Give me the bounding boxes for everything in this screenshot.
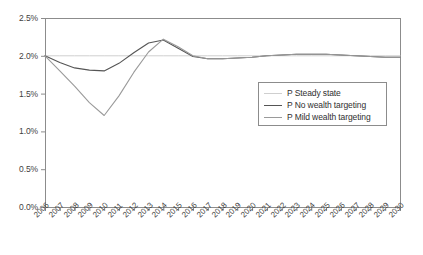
- y-axis-tick-label: 2.5%: [2, 13, 38, 23]
- y-axis-tick-label: 2.0%: [2, 51, 38, 61]
- y-axis-tick-label: 1.5%: [2, 89, 38, 99]
- legend-item: P Mild wealth targeting: [264, 111, 386, 123]
- line-chart: 0.0%0.5%1.0%1.5%2.0%2.5% 200620072008200…: [0, 0, 423, 255]
- legend-item: P Steady state: [264, 87, 386, 99]
- legend-label-no-wealth-targeting: P No wealth targeting: [287, 100, 366, 110]
- chart-legend: P Steady state P No wealth targeting P M…: [258, 82, 387, 126]
- legend-swatch-mild-wealth-targeting: [264, 117, 282, 118]
- y-axis-tick-label: 0.5%: [2, 164, 38, 174]
- legend-swatch-no-wealth-targeting: [264, 105, 282, 106]
- y-axis-tick-label: 1.0%: [2, 126, 38, 136]
- legend-label-mild-wealth-targeting: P Mild wealth targeting: [287, 112, 371, 122]
- legend-swatch-steady-state: [264, 93, 282, 94]
- legend-item: P No wealth targeting: [264, 99, 386, 111]
- legend-label-steady-state: P Steady state: [287, 88, 341, 98]
- plot-area: [0, 0, 423, 255]
